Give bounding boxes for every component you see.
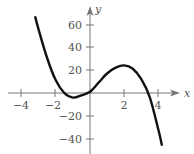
x-tick-label: −4 <box>13 99 29 112</box>
y-tick-label: 60 <box>68 19 82 32</box>
y-axis-label: y <box>94 3 102 16</box>
y-tick-label: −40 <box>59 133 82 146</box>
x-tick-label: 4 <box>155 99 162 112</box>
x-axis: x −4 −2 2 4 <box>8 87 191 112</box>
x-axis-label: x <box>184 87 191 100</box>
x-tick-label: 2 <box>121 99 128 112</box>
y-axis: y 60 40 20 −20 −40 <box>59 3 102 154</box>
y-tick-label: 40 <box>68 41 82 54</box>
y-tick-label: 20 <box>68 64 82 77</box>
y-tick-label: −20 <box>59 110 82 123</box>
function-curve <box>35 17 162 145</box>
cubic-function-graph: x −4 −2 2 4 y 60 40 20 −20 −40 <box>0 0 194 154</box>
